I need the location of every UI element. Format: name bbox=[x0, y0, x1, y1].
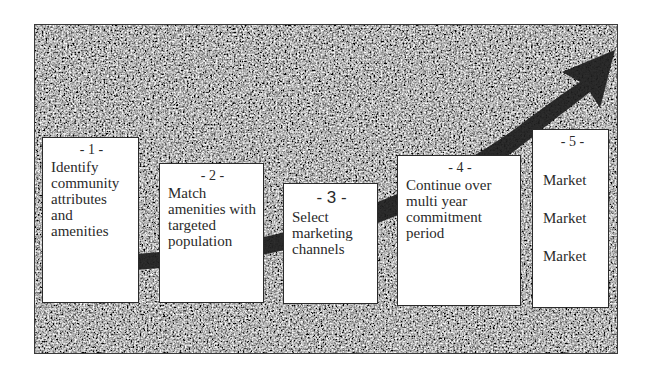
step-3-box: - 3 - Select marketing channels bbox=[283, 183, 378, 304]
step-4-number: - 4 - bbox=[406, 160, 514, 176]
step-1-number: - 1 - bbox=[51, 142, 132, 158]
step-5-item-2: Market bbox=[543, 210, 602, 226]
step-5-item-3: Market bbox=[543, 248, 602, 264]
step-2-box: - 2 - Match amenities with targeted popu… bbox=[159, 163, 264, 303]
step-2-text: Match amenities with targeted population bbox=[168, 185, 257, 249]
step-5-number: - 5 - bbox=[543, 134, 602, 150]
step-3-text: Select marketing channels bbox=[292, 209, 371, 257]
step-2-number: - 2 - bbox=[168, 168, 257, 184]
step-4-text: Continue over multi year commitment peri… bbox=[406, 177, 514, 241]
step-5-item-1: Market bbox=[543, 172, 602, 188]
step-5-box: - 5 - Market Market Market bbox=[532, 129, 609, 308]
step-4-box: - 4 - Continue over multi year commitmen… bbox=[397, 155, 521, 306]
step-3-number: - 3 - bbox=[292, 188, 371, 208]
step-1-text: Identify community attributes and amenit… bbox=[51, 159, 132, 239]
step-1-box: - 1 - Identify community attributes and … bbox=[42, 137, 139, 303]
